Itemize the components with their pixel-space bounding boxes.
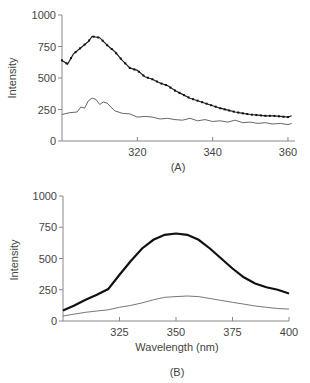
chart-panel-a: 02505007501000 320340360 Intensity (A) — [6, 9, 297, 173]
chart-panel-b: 02505007501000 325350375400 Intensity Wa… — [8, 190, 298, 378]
data-marker — [224, 108, 226, 110]
data-marker — [84, 44, 86, 46]
x-tick-label: 400 — [280, 326, 298, 338]
y-tick-label: 250 — [38, 104, 56, 116]
data-marker — [228, 110, 230, 112]
data-marker — [269, 115, 271, 117]
data-marker — [97, 36, 99, 38]
data-marker — [102, 40, 104, 42]
x-tick-label: 325 — [110, 326, 128, 338]
data-marker — [138, 71, 140, 73]
y-axis-label-a: Intensity — [6, 57, 18, 98]
data-marker — [278, 115, 280, 117]
data-marker — [287, 116, 289, 118]
data-marker — [66, 62, 68, 64]
data-marker — [201, 101, 203, 103]
data-marker — [160, 83, 162, 85]
data-marker — [273, 115, 275, 117]
x-ticks-a: 320340360 — [128, 137, 297, 158]
data-marker — [251, 114, 253, 116]
x-axis-label-b: Wavelength (nm) — [135, 341, 218, 353]
data-marker — [242, 112, 244, 114]
data-marker — [79, 47, 81, 49]
y-axis-label-b: Intensity — [8, 239, 20, 280]
y-tick-label: 0 — [51, 315, 57, 327]
data-marker — [156, 81, 158, 83]
data-marker — [215, 106, 217, 108]
x-tick-label: 340 — [203, 146, 221, 158]
data-marker — [282, 116, 284, 118]
panel-label-b: (B) — [170, 366, 185, 378]
x-tick-label: 375 — [223, 326, 241, 338]
series-dotted-markers-a — [61, 36, 289, 118]
series-solid-a — [62, 98, 292, 124]
data-marker — [142, 74, 144, 76]
panel-label-a: (A) — [171, 161, 186, 173]
x-ticks-b: 325350375400 — [110, 317, 298, 338]
data-marker — [183, 94, 185, 96]
y-tick-label: 1000 — [33, 190, 57, 202]
data-marker — [188, 96, 190, 98]
data-marker — [61, 59, 63, 61]
y-ticks-b: 02505007501000 — [33, 190, 63, 327]
data-marker — [133, 68, 135, 70]
series-thin-b — [63, 296, 289, 316]
x-tick-label: 360 — [279, 146, 297, 158]
data-marker — [192, 98, 194, 100]
data-marker — [93, 36, 95, 38]
y-tick-label: 250 — [39, 284, 57, 296]
data-marker — [115, 52, 117, 54]
y-tick-label: 750 — [38, 41, 56, 53]
data-marker — [124, 62, 126, 64]
data-marker — [179, 92, 181, 94]
data-marker — [169, 87, 171, 89]
series-dotted-a — [62, 36, 292, 117]
y-ticks-a: 02505007501000 — [32, 9, 62, 147]
data-marker — [260, 114, 262, 116]
data-marker — [111, 48, 113, 50]
data-marker — [129, 67, 131, 69]
data-marker — [206, 103, 208, 105]
data-marker — [233, 111, 235, 113]
data-marker — [120, 58, 122, 60]
data-marker — [210, 104, 212, 106]
figure: 02505007501000 320340360 Intensity (A) 0… — [0, 0, 310, 383]
data-marker — [165, 84, 167, 86]
y-tick-label: 1000 — [32, 9, 56, 21]
data-marker — [255, 114, 257, 116]
data-marker — [75, 51, 77, 53]
y-tick-label: 500 — [38, 72, 56, 84]
data-marker — [264, 115, 266, 117]
data-marker — [147, 77, 149, 79]
data-marker — [151, 78, 153, 80]
data-marker — [246, 113, 248, 115]
y-tick-label: 0 — [50, 135, 56, 147]
data-marker — [70, 57, 72, 59]
data-marker — [88, 39, 90, 41]
series-bold-b — [63, 234, 289, 311]
x-tick-label: 320 — [128, 146, 146, 158]
data-marker — [197, 100, 199, 102]
data-marker — [237, 112, 239, 114]
data-marker — [106, 44, 108, 46]
data-marker — [219, 107, 221, 109]
x-tick-label: 350 — [167, 326, 185, 338]
data-marker — [174, 90, 176, 92]
y-tick-label: 750 — [39, 221, 57, 233]
y-tick-label: 500 — [39, 253, 57, 265]
